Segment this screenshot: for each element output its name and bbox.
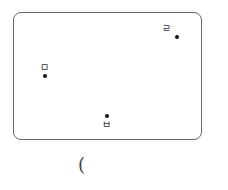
- point-bieup: [105, 114, 109, 118]
- point-label-rieul: ㄹ: [162, 24, 171, 34]
- point-rieul: [175, 35, 179, 39]
- point-mieum: [43, 74, 47, 78]
- point-label-mieum: ㅁ: [40, 63, 49, 73]
- point-label-bieup: ㅂ: [102, 120, 111, 130]
- footer-paren: (: [78, 156, 85, 174]
